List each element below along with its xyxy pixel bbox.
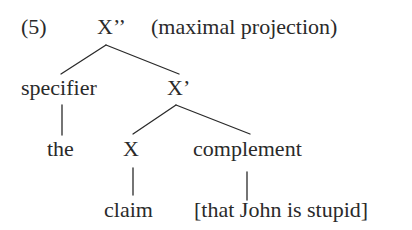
edge-root-specifier <box>61 45 106 74</box>
edge-xbar-x <box>133 105 176 134</box>
node-root: X’’ <box>97 16 126 38</box>
edge-xbar-complement <box>176 105 250 134</box>
node-clause: [that John is stupid] <box>194 199 368 221</box>
node-specifier: specifier <box>21 77 97 99</box>
edge-root-xbar <box>106 45 179 74</box>
example-number: (5) <box>21 16 47 38</box>
node-x-bar: X’ <box>167 77 190 99</box>
node-root-annotation: (maximal projection) <box>151 16 337 38</box>
node-x-head: X <box>123 138 139 160</box>
node-the: the <box>47 138 74 160</box>
node-complement: complement <box>193 138 302 160</box>
node-claim: claim <box>104 199 153 221</box>
